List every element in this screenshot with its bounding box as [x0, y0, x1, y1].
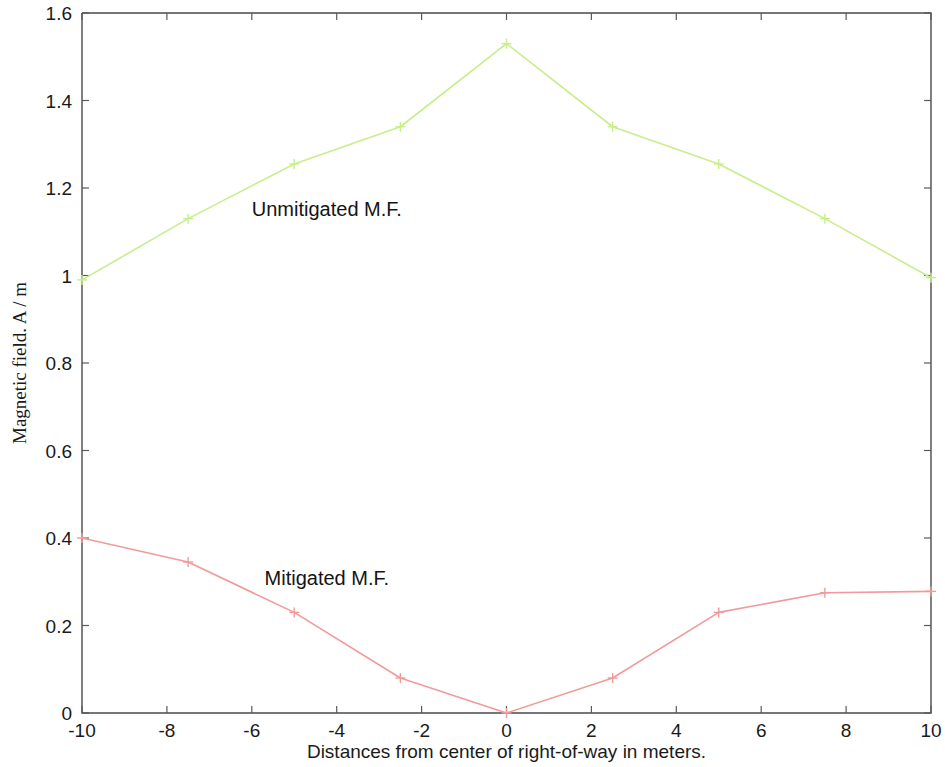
y-tick-label: 0.4 — [46, 528, 73, 549]
x-tick-label: -4 — [328, 720, 345, 741]
x-tick-label: -10 — [68, 720, 95, 741]
x-tick-label: 10 — [920, 720, 941, 741]
x-tick-label: 0 — [501, 720, 512, 741]
series-line — [82, 44, 931, 280]
series-label: Mitigated M.F. — [265, 567, 389, 589]
magnetic-field-line-chart: -10-8-6-4-20246810 00.20.40.60.811.21.41… — [0, 0, 945, 767]
y-axis-tick-labels: 00.20.40.60.811.21.41.6 — [46, 3, 73, 724]
data-point-marker — [714, 159, 724, 169]
x-tick-label: -8 — [158, 720, 175, 741]
data-point-marker — [608, 673, 618, 683]
data-point-marker — [395, 673, 405, 683]
plot-border — [82, 13, 931, 713]
axes-frame — [82, 13, 931, 713]
y-tick-label: 0.8 — [46, 353, 72, 374]
y-tick-label: 1.4 — [46, 91, 73, 112]
x-tick-label: -6 — [243, 720, 260, 741]
y-axis-title: Magnetic field. A / m — [9, 282, 30, 444]
x-tick-label: -2 — [413, 720, 430, 741]
data-series-layer — [77, 39, 936, 718]
x-tick-label: 2 — [586, 720, 597, 741]
y-tick-label: 1 — [61, 266, 72, 287]
y-axis-ticks — [82, 13, 931, 713]
data-point-marker — [926, 273, 936, 283]
data-point-marker — [289, 159, 299, 169]
series-annotations: Unmitigated M.F.Mitigated M.F. — [252, 198, 402, 589]
y-tick-label: 1.6 — [46, 3, 72, 24]
data-point-marker — [926, 586, 936, 596]
y-tick-label: 1.2 — [46, 178, 72, 199]
y-tick-label: 0.2 — [46, 616, 72, 637]
y-tick-label: 0 — [61, 703, 72, 724]
x-axis-ticks — [82, 13, 931, 713]
y-tick-label: 0.6 — [46, 441, 72, 462]
axis-titles: Distances from center of right-of-way in… — [9, 282, 706, 762]
data-point-marker — [502, 708, 512, 718]
x-tick-label: 8 — [841, 720, 852, 741]
series-label: Unmitigated M.F. — [252, 198, 402, 220]
x-tick-label: 6 — [756, 720, 767, 741]
data-point-marker — [714, 607, 724, 617]
data-point-marker — [183, 214, 193, 224]
data-point-marker — [183, 557, 193, 567]
x-axis-title: Distances from center of right-of-way in… — [307, 741, 706, 762]
series-line — [82, 538, 931, 713]
data-point-marker — [77, 533, 87, 543]
data-point-marker — [820, 588, 830, 598]
data-point-marker — [820, 214, 830, 224]
chart-figure: -10-8-6-4-20246810 00.20.40.60.811.21.41… — [0, 0, 945, 767]
x-axis-tick-labels: -10-8-6-4-20246810 — [68, 720, 941, 741]
data-point-marker — [289, 607, 299, 617]
data-point-marker — [77, 275, 87, 285]
x-tick-label: 4 — [671, 720, 682, 741]
